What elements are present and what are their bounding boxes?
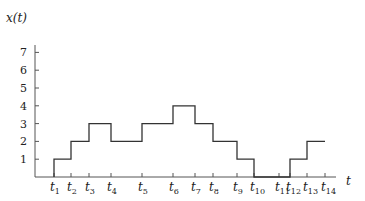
x-axis-label: t bbox=[346, 174, 351, 188]
step-function-chart: 1234567 t1t2t3t4t5t6t7t8t9t10t11t12t13t1… bbox=[0, 0, 365, 201]
x-tick-label: t10 bbox=[250, 180, 265, 196]
x-tick-label: t2 bbox=[67, 180, 77, 196]
x-tick-label: t12 bbox=[286, 180, 301, 196]
x-tick-label: t8 bbox=[209, 180, 219, 196]
x-tick-label: t3 bbox=[85, 180, 95, 196]
axes bbox=[35, 45, 336, 177]
x-tick-label: t1 bbox=[50, 180, 60, 196]
y-axis-ticks: 1234567 bbox=[20, 46, 39, 166]
y-axis-label: x(t) bbox=[6, 11, 27, 25]
x-tick-label: t5 bbox=[138, 180, 148, 196]
x-tick-label: t9 bbox=[233, 180, 243, 196]
x-axis-ticks: t1t2t3t4t5t6t7t8t9t10t11t12t13t14 bbox=[50, 173, 336, 196]
x-tick-label: t13 bbox=[303, 180, 318, 196]
y-tick-label: 5 bbox=[20, 82, 27, 95]
x-tick-label: t6 bbox=[169, 180, 179, 196]
x-tick-label: t14 bbox=[321, 180, 336, 196]
y-tick-label: 7 bbox=[20, 46, 27, 59]
y-tick-label: 2 bbox=[20, 135, 27, 148]
y-tick-label: 4 bbox=[20, 100, 27, 113]
y-tick-label: 1 bbox=[20, 153, 27, 166]
x-tick-label: t7 bbox=[191, 180, 201, 196]
y-tick-label: 3 bbox=[20, 118, 27, 131]
y-tick-label: 6 bbox=[20, 64, 27, 77]
x-tick-label: t4 bbox=[107, 180, 117, 196]
step-series-line bbox=[54, 106, 325, 177]
